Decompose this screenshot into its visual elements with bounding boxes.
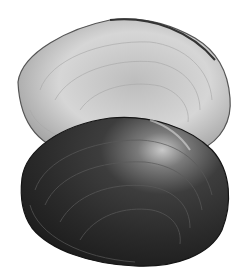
dark-shell: [21, 117, 228, 266]
shell-illustration: [0, 0, 247, 280]
shells-drawing: [0, 0, 247, 280]
